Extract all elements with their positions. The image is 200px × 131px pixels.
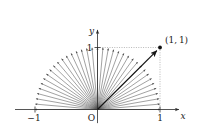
y-axis-label: y: [88, 26, 95, 36]
origin-label: O: [88, 113, 95, 123]
x-axis-label: x: [180, 111, 185, 121]
axes: [15, 30, 179, 123]
vector-diagram-figure: (1, 1) O −1 1 1 x y: [0, 0, 200, 131]
x-tick-label-minus-one: −1: [27, 113, 40, 123]
point-label: (1, 1): [165, 35, 188, 45]
vector-diagram-canvas: (1, 1) O −1 1 1 x y: [0, 0, 200, 131]
x-tick-label-one: 1: [157, 113, 163, 123]
y-tick-label-one: 1: [87, 43, 93, 53]
point-marker: [158, 46, 162, 50]
